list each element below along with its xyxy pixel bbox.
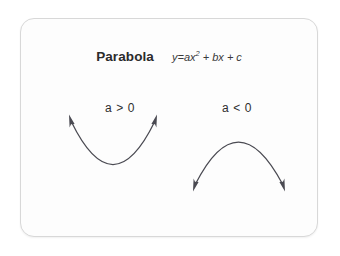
- diagram-card: Parabola y=ax2 + bx + c a > 0 a < 0: [20, 18, 318, 237]
- page-title: Parabola: [96, 49, 154, 64]
- figure-canvas: Parabola y=ax2 + bx + c a > 0 a < 0: [0, 0, 340, 256]
- condition-label-a-negative: a < 0: [222, 101, 252, 115]
- condition-label-a-positive: a > 0: [105, 101, 135, 115]
- equation-tail: + bx + c: [200, 51, 242, 63]
- diagram-header: Parabola y=ax2 + bx + c: [21, 49, 317, 64]
- equation-label: y=ax2 + bx + c: [172, 49, 242, 63]
- equation-base: y=ax: [172, 51, 196, 63]
